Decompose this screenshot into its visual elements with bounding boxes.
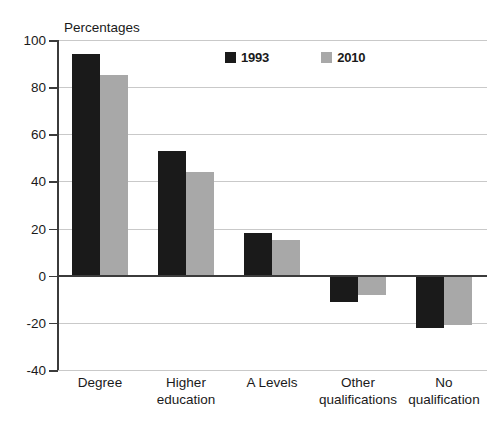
legend-label: 2010	[337, 50, 365, 65]
bar-1993-no-qualification	[416, 276, 444, 328]
bar-1993-higher-education	[158, 151, 186, 276]
y-axis-tick	[49, 370, 58, 372]
y-axis-tick-label: -40	[2, 363, 46, 378]
y-axis-tick-label: 0	[2, 268, 46, 283]
legend: 19932010	[225, 50, 365, 65]
bar-2010-degree	[100, 75, 128, 275]
y-axis-tick-label: -20	[2, 315, 46, 330]
legend-label: 1993	[241, 50, 269, 65]
zero-axis-line	[57, 275, 487, 277]
x-axis-label-no-qualification: Noqualification	[391, 374, 497, 408]
x-axis-category-labels: DegreeHighereducationA LevelsOtherqualif…	[57, 374, 487, 420]
bar-1993-a-levels	[244, 233, 272, 275]
bars-layer	[57, 40, 487, 370]
y-axis-tick-label: 40	[2, 174, 46, 189]
bar-2010-higher-education	[186, 172, 214, 276]
y-axis-tick-label: 20	[2, 221, 46, 236]
legend-item-1993: 1993	[225, 50, 269, 65]
gridline	[57, 370, 487, 371]
legend-swatch-icon	[321, 52, 332, 63]
legend-item-2010: 2010	[321, 50, 365, 65]
legend-swatch-icon	[225, 52, 236, 63]
bar-2010-other-qualifications	[358, 276, 386, 295]
y-axis-title: Percentages	[64, 20, 140, 35]
bar-1993-degree	[72, 54, 100, 276]
bar-2010-no-qualification	[444, 276, 472, 326]
y-axis-tick-label: 80	[2, 80, 46, 95]
bar-2010-a-levels	[272, 240, 300, 275]
y-axis-tick-label: 60	[2, 127, 46, 142]
bar-chart: Percentages 100806040200-20-40 19932010 …	[0, 0, 504, 422]
plot-area	[57, 40, 487, 370]
bar-1993-other-qualifications	[330, 276, 358, 302]
y-axis-tick-label: 100	[2, 33, 46, 48]
